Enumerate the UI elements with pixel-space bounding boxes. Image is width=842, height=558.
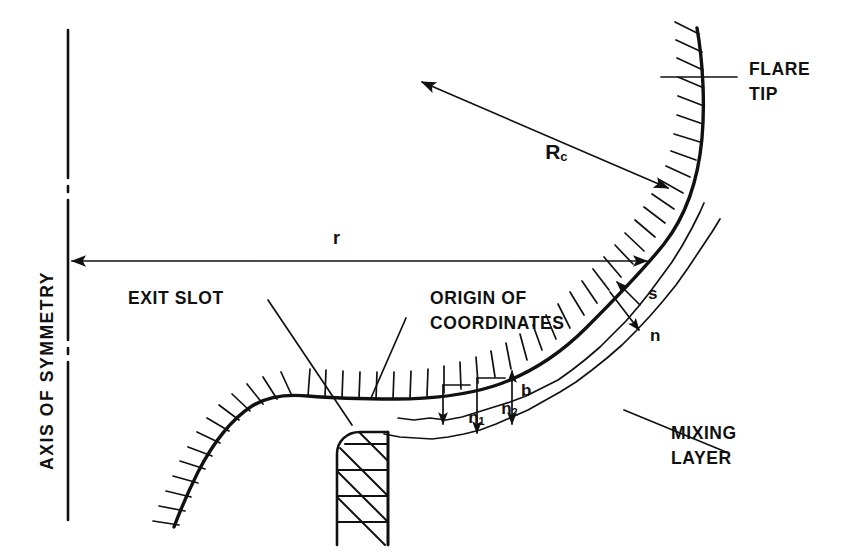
n1-base: n (468, 408, 478, 427)
mixing-layer-thickness-label: b (521, 381, 531, 400)
origin-of-coordinates-leader (371, 318, 406, 398)
nozzle-body-block (337, 432, 388, 545)
n2-base: n (501, 399, 511, 418)
flare-tip-label-line2: TIP (749, 85, 778, 105)
normal-coordinate-label: n (650, 326, 660, 345)
rc-subscript: c (560, 149, 567, 164)
axis-of-symmetry-label: AXIS OF SYMMETRY (38, 271, 58, 470)
streamwise-coordinate-label: s (648, 284, 657, 303)
wall-hatching (153, 22, 704, 525)
flare-tip-label-line1: FLARE (749, 60, 810, 80)
diagram-canvas (0, 0, 842, 558)
mixing-layer-label-line2: LAYER (671, 449, 732, 469)
exit-slot-leader (268, 300, 352, 425)
n2-label: n2 (481, 381, 518, 436)
rc-base: R (545, 140, 560, 163)
exit-slot-label: EXIT SLOT (128, 289, 224, 309)
origin-of-coordinates-label-line2: COORDINATES (430, 314, 565, 334)
n2-subscript: 2 (512, 406, 518, 418)
radius-of-curvature-label: Rc (525, 122, 568, 182)
n1-label: n1 (448, 390, 485, 445)
origin-of-coordinates-label-line1: ORIGIN OF (430, 289, 527, 309)
mixing-layer-label-line1: MIXING (671, 424, 737, 444)
flare-wall-profile (174, 28, 703, 527)
radial-distance-label: r (333, 228, 340, 248)
flare-nozzle-diagram: AXIS OF SYMMETRY FLARE TIP Rc r EXIT SLO… (0, 0, 842, 558)
